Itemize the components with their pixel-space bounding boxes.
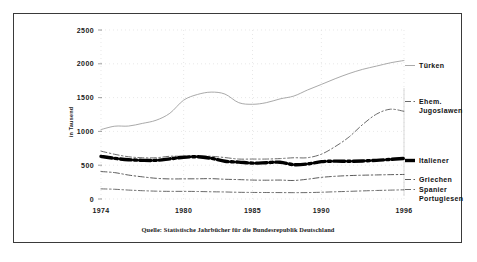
chart-screenshot: 05001000150020002500 1974198019851990199… <box>0 0 477 262</box>
x-tick-label: 1990 <box>313 207 330 214</box>
legend-label-griechen: Griechen <box>419 176 452 183</box>
x-tick-label: 1996 <box>395 207 412 214</box>
legend-label-spanier: Portugiesen <box>419 195 463 203</box>
y-tick-label: 500 <box>81 162 94 169</box>
x-tick-label: 1980 <box>175 207 192 214</box>
legend-label-italiener: Italiener <box>419 157 449 164</box>
legend-label-spanier: Spanier <box>419 186 447 194</box>
gridlines-group <box>101 30 404 199</box>
y-axis-title: in Tausend <box>68 107 74 138</box>
line-chart: 05001000150020002500 1974198019851990199… <box>0 0 477 262</box>
source-note: Quelle: Statistische Jahrbücher für die … <box>141 226 334 233</box>
y-axis-tick-labels: 05001000150020002500 <box>77 27 94 203</box>
legend-label-jugoslawen: Jugoslawen <box>419 107 463 115</box>
y-tick-label: 0 <box>90 196 94 203</box>
legend-label-jugoslawen: Ehem. <box>419 98 442 105</box>
x-tick-label: 1985 <box>244 207 261 214</box>
legend: TürkenEhem.JugoslawenItalienerGriechenSp… <box>405 62 463 203</box>
y-tick-label: 1000 <box>77 128 94 135</box>
y-tick-label: 2500 <box>77 27 94 34</box>
y-tick-label: 2000 <box>77 60 94 67</box>
legend-label-tuerken: Türken <box>419 62 444 69</box>
x-axis-tick-labels: 19741980198519901996 <box>92 207 412 214</box>
y-tick-label: 1500 <box>77 94 94 101</box>
tickmarks-group <box>98 30 404 199</box>
x-tick-label: 1974 <box>92 207 109 214</box>
series-line-3 <box>101 172 404 181</box>
